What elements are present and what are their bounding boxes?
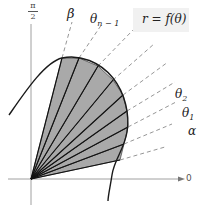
dashed-ray [79,24,102,58]
polar-axis-arrow-icon [178,177,185,182]
dashed-ray [62,22,72,58]
pi-numerator: π [30,1,35,10]
label-beta: β [67,7,75,20]
equation-label: r = f(θ) [142,13,186,25]
dashed-ray [123,62,168,95]
polar-axis-label: 0 [186,173,192,183]
dashed-ray [124,124,172,144]
vertical-axis-label: π 2 [28,2,38,21]
label-theta-1: θ1 [182,107,194,122]
dashed-ray [120,147,165,160]
dashed-ray [113,44,154,80]
label-alpha: α [188,125,196,137]
label-theta-n-minus-1: θn − 1 [90,13,119,28]
two-denominator: 2 [30,12,35,21]
dashed-ray [98,30,133,66]
label-theta-2: θ2 [175,88,187,103]
